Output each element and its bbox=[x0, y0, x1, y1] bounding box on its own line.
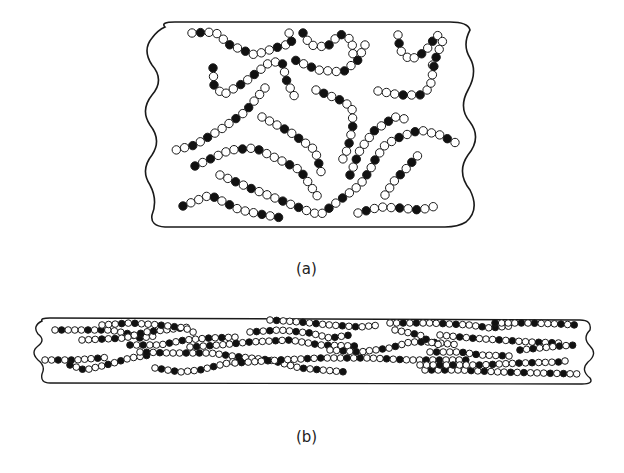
light-bead bbox=[346, 323, 353, 330]
light-bead bbox=[435, 45, 443, 53]
light-bead bbox=[440, 349, 447, 356]
dark-bead bbox=[340, 369, 347, 376]
light-bead bbox=[463, 362, 470, 369]
light-bead bbox=[489, 336, 496, 343]
light-bead bbox=[176, 350, 183, 357]
light-bead bbox=[137, 349, 144, 356]
light-bead bbox=[564, 321, 571, 328]
light-bead bbox=[62, 357, 69, 364]
dark-bead bbox=[278, 60, 286, 68]
light-bead bbox=[319, 333, 326, 340]
light-bead bbox=[370, 204, 378, 212]
light-bead bbox=[443, 362, 450, 369]
light-bead bbox=[438, 37, 446, 45]
dark-bead bbox=[357, 355, 364, 362]
light-bead bbox=[429, 339, 436, 346]
light-bead bbox=[224, 174, 232, 182]
light-bead bbox=[339, 155, 347, 163]
light-bead bbox=[391, 90, 399, 98]
dark-bead bbox=[253, 328, 260, 335]
light-bead bbox=[311, 355, 318, 362]
light-bead bbox=[563, 342, 570, 349]
dark-bead bbox=[238, 359, 245, 366]
light-bead bbox=[312, 86, 320, 94]
light-bead bbox=[239, 339, 246, 346]
light-bead bbox=[266, 338, 273, 345]
dark-bead bbox=[279, 197, 287, 205]
light-bead bbox=[450, 333, 457, 340]
polymer-chain bbox=[374, 62, 438, 99]
light-bead bbox=[361, 41, 369, 49]
light-bead bbox=[253, 338, 260, 345]
light-bead bbox=[444, 341, 451, 348]
dark-bead bbox=[300, 365, 307, 372]
dark-bead bbox=[383, 356, 390, 363]
light-bead bbox=[332, 67, 340, 75]
dark-bead bbox=[140, 342, 147, 349]
light-bead bbox=[359, 324, 366, 331]
dark-bead bbox=[345, 332, 352, 339]
light-bead bbox=[249, 209, 257, 217]
light-bead bbox=[280, 318, 287, 325]
light-bead bbox=[165, 323, 172, 330]
light-bead bbox=[263, 191, 271, 199]
polymer-chain bbox=[394, 31, 447, 69]
dark-bead bbox=[317, 355, 324, 362]
dark-bead bbox=[521, 369, 528, 376]
light-bead bbox=[133, 342, 140, 349]
light-bead bbox=[328, 92, 336, 100]
dark-bead bbox=[255, 146, 263, 154]
light-bead bbox=[486, 352, 493, 359]
light-bead bbox=[270, 153, 278, 161]
light-bead bbox=[505, 320, 512, 327]
light-bead bbox=[535, 359, 542, 366]
light-bead bbox=[302, 206, 310, 214]
dark-bead bbox=[529, 359, 536, 366]
dark-bead bbox=[450, 362, 457, 369]
polymer-chain bbox=[354, 203, 438, 218]
light-bead bbox=[205, 28, 213, 36]
light-bead bbox=[160, 341, 167, 348]
dark-bead bbox=[219, 334, 226, 341]
dark-bead bbox=[530, 345, 537, 352]
dark-bead bbox=[392, 343, 399, 350]
light-bead bbox=[299, 60, 307, 68]
light-bead bbox=[360, 348, 367, 355]
light-bead bbox=[299, 339, 306, 346]
light-bead bbox=[144, 329, 151, 336]
light-bead bbox=[220, 341, 227, 348]
light-bead bbox=[232, 334, 239, 341]
light-bead bbox=[91, 327, 98, 334]
dark-bead bbox=[274, 213, 282, 221]
dark-bead bbox=[489, 361, 496, 368]
light-bead bbox=[320, 367, 327, 374]
dark-bead bbox=[352, 155, 360, 163]
light-bead bbox=[111, 328, 118, 335]
light-bead bbox=[413, 152, 421, 160]
light-bead bbox=[357, 49, 365, 57]
light-bead bbox=[514, 369, 521, 376]
light-bead bbox=[382, 88, 390, 96]
light-bead bbox=[488, 368, 495, 375]
light-bead bbox=[451, 341, 458, 348]
light-bead bbox=[324, 355, 331, 362]
dark-bead bbox=[556, 343, 563, 350]
dark-bead bbox=[158, 366, 165, 373]
light-bead bbox=[453, 349, 460, 356]
light-bead bbox=[405, 329, 412, 336]
light-bead bbox=[430, 362, 437, 369]
light-bead bbox=[404, 205, 412, 213]
light-bead bbox=[213, 342, 220, 349]
light-bead bbox=[285, 29, 293, 37]
light-bead bbox=[522, 360, 529, 367]
dark-bead bbox=[479, 324, 486, 331]
light-bead bbox=[493, 352, 500, 359]
dark-bead bbox=[411, 128, 419, 136]
light-bead bbox=[65, 327, 72, 334]
light-bead bbox=[226, 341, 233, 348]
dark-bead bbox=[191, 162, 199, 170]
dark-bead bbox=[193, 343, 200, 350]
light-bead bbox=[118, 335, 125, 342]
dark-bead bbox=[349, 122, 357, 130]
light-bead bbox=[73, 364, 80, 371]
